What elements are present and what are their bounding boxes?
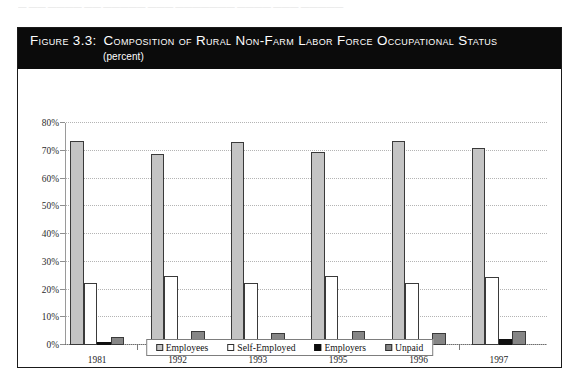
y-axis-label: 20% bbox=[42, 285, 59, 295]
y-axis-line bbox=[65, 123, 66, 345]
x-axis-label-1993: 1993 bbox=[231, 355, 285, 365]
bar-employees-1992[interactable] bbox=[151, 154, 165, 345]
legend-swatch-unpaid-icon bbox=[385, 344, 392, 351]
y-axis-label: 70% bbox=[42, 146, 59, 156]
bar-unpaid-1996[interactable] bbox=[432, 333, 446, 345]
y-axis-tick bbox=[60, 289, 65, 290]
bar-group: 1996 bbox=[392, 123, 446, 345]
x-axis-label-1995: 1995 bbox=[311, 355, 365, 365]
legend-label: Employers bbox=[324, 342, 366, 353]
bar-group: 1995 bbox=[311, 123, 365, 345]
legend-label: Unpaid bbox=[395, 342, 423, 353]
bar-employers-1997[interactable] bbox=[499, 339, 513, 345]
page-bleed-text: — —— ———— —— ————— ——— ——————— ———— ——— … bbox=[18, 1, 438, 10]
legend-swatch-selfemp-icon bbox=[227, 344, 234, 351]
y-axis-tick bbox=[60, 233, 65, 234]
figure-frame: Figure 3.3:Composition of Rural Non-Farm… bbox=[17, 27, 562, 368]
x-axis-label-1996: 1996 bbox=[392, 355, 446, 365]
y-axis-label: 10% bbox=[42, 312, 59, 322]
figure-subtitle: (percent) bbox=[103, 51, 561, 63]
legend-item-employers[interactable]: Employers bbox=[314, 342, 366, 353]
figure-label: Figure 3.3: bbox=[30, 33, 97, 48]
figure-title-line: Figure 3.3:Composition of Rural Non-Farm… bbox=[30, 32, 561, 49]
bar-employees-1993[interactable] bbox=[231, 142, 245, 345]
y-axis-tick bbox=[60, 205, 65, 206]
bar-employers-1981[interactable] bbox=[97, 342, 111, 345]
legend-item-employees[interactable]: Employees bbox=[156, 342, 209, 353]
y-axis-label: 40% bbox=[42, 229, 59, 239]
chart-legend: EmployeesSelf-EmployedEmployersUnpaid bbox=[146, 339, 434, 356]
bar-group-bars bbox=[151, 123, 205, 345]
bar-employees-1997[interactable] bbox=[472, 148, 486, 345]
y-axis-label: 50% bbox=[42, 201, 59, 211]
x-axis-tick bbox=[459, 345, 460, 350]
y-axis-tick bbox=[60, 178, 65, 179]
legend-label: Employees bbox=[166, 342, 209, 353]
x-axis-tick bbox=[137, 345, 138, 350]
bar-employees-1996[interactable] bbox=[392, 141, 406, 345]
legend-item-unpaid[interactable]: Unpaid bbox=[385, 342, 423, 353]
x-axis-label-1981: 1981 bbox=[70, 355, 124, 365]
y-axis-tick bbox=[60, 261, 65, 262]
legend-swatch-employees-icon bbox=[156, 344, 163, 351]
bar-group-bars bbox=[472, 123, 526, 345]
figure-title-banner: Figure 3.3:Composition of Rural Non-Farm… bbox=[18, 28, 561, 69]
bar-group-bars bbox=[231, 123, 285, 345]
legend-label: Self-Employed bbox=[237, 342, 295, 353]
y-axis-label: 80% bbox=[42, 118, 59, 128]
page-title: Composition of Rural Non-Farm Labor Forc… bbox=[104, 33, 498, 48]
bar-employees-1981[interactable] bbox=[70, 141, 84, 345]
bar-selfemp-1992[interactable] bbox=[164, 276, 178, 345]
bar-selfemp-1993[interactable] bbox=[244, 283, 258, 345]
plot-area: 0%10%20%30%40%50%60%70%80%19811992199319… bbox=[65, 79, 547, 349]
bar-selfemp-1981[interactable] bbox=[84, 283, 98, 345]
bar-group-bars bbox=[70, 123, 124, 345]
y-axis-tick bbox=[60, 150, 65, 151]
bar-group: 1997 bbox=[472, 123, 526, 345]
chart-body: 0%10%20%30%40%50%60%70%80%19811992199319… bbox=[18, 69, 561, 369]
bar-selfemp-1997[interactable] bbox=[485, 277, 499, 345]
bar-selfemp-1996[interactable] bbox=[405, 283, 419, 345]
y-axis-label: 60% bbox=[42, 174, 59, 184]
bar-group: 1981 bbox=[70, 123, 124, 345]
x-axis-label-1997: 1997 bbox=[472, 355, 526, 365]
legend-swatch-employers-icon bbox=[314, 344, 321, 351]
x-axis-label-1992: 1992 bbox=[151, 355, 205, 365]
y-axis-label: 0% bbox=[47, 340, 60, 350]
y-axis-label: 30% bbox=[42, 257, 59, 267]
y-axis-tick bbox=[60, 344, 65, 345]
bar-group-bars bbox=[392, 123, 446, 345]
y-axis-tick bbox=[60, 122, 65, 123]
y-axis-tick bbox=[60, 316, 65, 317]
bar-group: 1992 bbox=[151, 123, 205, 345]
bar-unpaid-1981[interactable] bbox=[111, 337, 125, 345]
bar-group-bars bbox=[311, 123, 365, 345]
legend-item-selfemp[interactable]: Self-Employed bbox=[227, 342, 295, 353]
bar-group: 1993 bbox=[231, 123, 285, 345]
bar-selfemp-1995[interactable] bbox=[325, 276, 339, 345]
bar-unpaid-1997[interactable] bbox=[512, 331, 526, 345]
bar-employees-1995[interactable] bbox=[311, 152, 325, 345]
